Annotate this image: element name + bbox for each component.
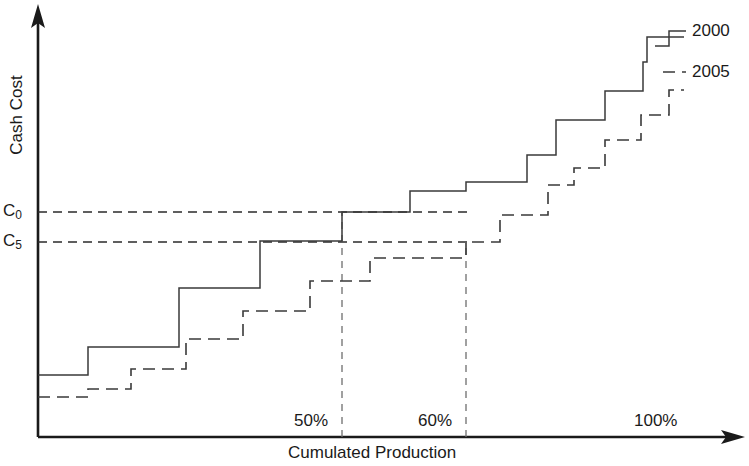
legend-sample-2000-icon (655, 31, 686, 46)
y-reference-label-c5: C5 (3, 231, 22, 251)
y-reference-label-c0: C0 (3, 201, 22, 221)
y-axis-title: Cash Cost (7, 65, 27, 165)
c0-base: C (3, 201, 15, 220)
legend-label-2005: 2005 (692, 62, 730, 82)
x-tick-label-50: 50% (294, 411, 328, 431)
legend-label-2000: 2000 (692, 21, 730, 41)
cost-curve-chart: Cash Cost Cumulated Production C0 C5 50%… (0, 0, 749, 466)
chart-canvas (0, 0, 749, 466)
series-line-2005 (38, 90, 684, 397)
c5-subscript: 5 (15, 238, 22, 252)
x-tick-label-60: 60% (418, 411, 452, 431)
x-tick-label-100: 100% (634, 411, 677, 431)
series-line-2000 (38, 37, 684, 375)
c0-subscript: 0 (15, 208, 22, 222)
x-axis-title: Cumulated Production (288, 443, 456, 463)
c5-base: C (3, 231, 15, 250)
